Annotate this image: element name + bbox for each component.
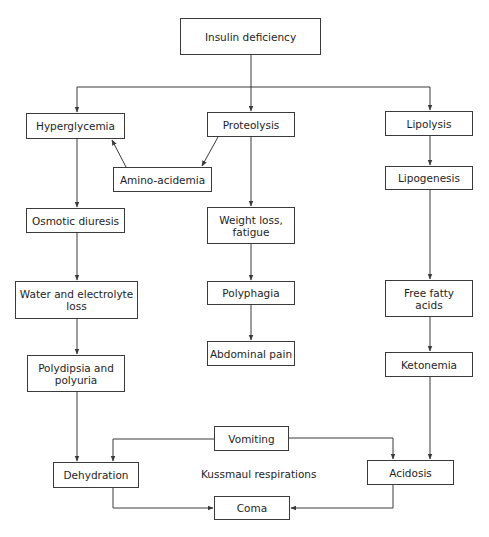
node-coma: Coma [214, 496, 290, 520]
node-weight-loss-fatigue: Weight loss, fatigue [207, 207, 295, 244]
node-amino-acidemia: Amino-acidemia [113, 167, 212, 192]
node-abdominal-pain: Abdominal pain [207, 341, 295, 366]
node-hyperglycemia: Hyperglycemia [26, 113, 125, 139]
node-dehydration: Dehydration [53, 462, 139, 488]
node-water-electrolyte-loss: Water and electrolyte loss [15, 281, 138, 319]
node-free-fatty-acids: Free fatty acids [385, 280, 473, 317]
connector-lines [0, 0, 489, 537]
node-osmotic-diuresis: Osmotic diuresis [26, 208, 125, 233]
annotation-kussmaul-respirations: Kussmaul respirations [201, 468, 316, 480]
node-polyphagia: Polyphagia [207, 281, 295, 305]
node-ketonemia: Ketonemia [385, 352, 473, 377]
node-insulin-deficiency: Insulin deficiency [180, 18, 321, 55]
node-lipolysis: Lipolysis [385, 111, 473, 136]
node-vomiting: Vomiting [214, 426, 289, 451]
node-polydipsia-polyuria: Polydipsia and polyuria [27, 355, 125, 392]
node-lipogenesis: Lipogenesis [385, 166, 473, 190]
node-proteolysis: Proteolysis [207, 112, 295, 137]
node-acidosis: Acidosis [367, 460, 454, 485]
flowchart-canvas: Insulin deficiency Hyperglycemia Proteol… [0, 0, 489, 537]
